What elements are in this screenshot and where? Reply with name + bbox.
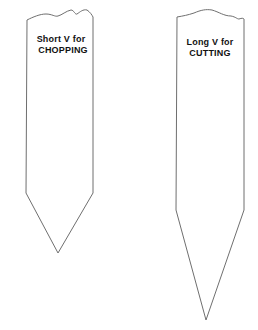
long-v-label-line2: CUTTING [180,48,240,59]
long-v-label: Long V for CUTTING [180,37,240,59]
long-v-label-line1: Long V for [180,37,240,48]
short-v-label: Short V for CHOPPING [31,34,91,56]
short-v-label-line2: CHOPPING [31,45,91,56]
short-v-label-line1: Short V for [31,34,91,45]
